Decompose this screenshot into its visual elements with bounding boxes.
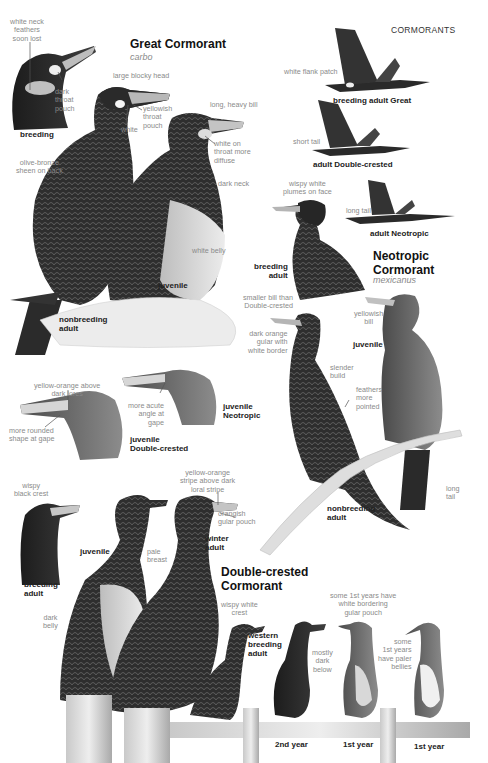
- label-dc-2nd-year: 2nd year: [275, 740, 308, 749]
- label-neo-breeding: breeding adult: [254, 262, 288, 280]
- note-short-tail: short tail: [293, 138, 320, 146]
- note-white: white: [121, 126, 138, 134]
- post-middle: [124, 708, 170, 763]
- note-rounded-gape: more rounded shape at gape: [9, 427, 55, 444]
- label-flight-neo: adult Neotropic: [370, 229, 429, 238]
- label-juv-dc: juvenile Double-crested: [130, 435, 188, 453]
- field-guide-page: CORMORANTS Great Cormorant carbo white n…: [0, 0, 488, 763]
- note-long-tail-flight: long tail: [346, 207, 371, 215]
- note-yellow-orange-lores: yellow-orange above dark lores: [34, 382, 100, 399]
- label-dc-breeding: breeding adult: [24, 580, 58, 598]
- neotropic-scientific: mexicanus: [373, 275, 416, 285]
- dc-1st-year-a: [338, 622, 378, 718]
- note-yellow-pouch: yellowish throat pouch: [143, 105, 172, 130]
- post-left: [66, 695, 112, 763]
- great-cormorant-title: Great Cormorant: [130, 38, 226, 52]
- fence-rail: [170, 722, 470, 738]
- note-wispy-plumes: wispy white plumes on face: [283, 180, 332, 197]
- note-white-belly: white belly: [192, 247, 226, 255]
- note-mostly-dark: mostly dark below: [312, 649, 333, 674]
- flight-double-crested: [312, 100, 410, 156]
- label-great-juvenile: juvenile: [158, 281, 188, 290]
- note-olive-sheen: olive-bronze sheen on back: [16, 159, 63, 176]
- note-paler-bellies: some 1st years have paler bellies: [378, 638, 412, 671]
- note-blocky-head: large blocky head: [113, 72, 169, 80]
- label-dc-winter: winter adult: [205, 534, 229, 552]
- fence-post-1: [243, 708, 259, 763]
- note-dark-pouch: dark throat pouch: [55, 88, 75, 113]
- note-smaller-bill: smaller bill than Double-crested: [243, 294, 293, 311]
- label-neo-nonbreeding: nonbreeding adult: [327, 504, 375, 522]
- note-feathers-pointed: feathers more pointed: [356, 386, 382, 411]
- note-white-throat: white on throat more diffuse: [214, 140, 251, 165]
- section-header: CORMORANTS: [391, 26, 455, 36]
- label-juv-neo: juvenile Neotropic: [223, 402, 260, 420]
- note-dark-orange: dark orange gular with white border: [248, 330, 288, 355]
- note-dark-belly: dark belly: [43, 614, 58, 631]
- note-white-crest: wispy white crest: [221, 601, 258, 618]
- note-neck-feathers: white neck feathers soon lost: [10, 18, 44, 43]
- dc-title: Double-crested Cormorant: [221, 566, 308, 594]
- label-great-nonbreeding: nonbreeding adult: [59, 315, 107, 333]
- label-great-breeding: breeding: [20, 130, 54, 139]
- fence-post-2: [380, 708, 396, 763]
- label-flight-dc: adult Double-crested: [313, 160, 393, 169]
- note-long-tail: long tail: [446, 485, 460, 502]
- neotropic-title: Neotropic Cormorant: [373, 250, 434, 278]
- note-heavy-bill: long, heavy bill: [210, 101, 258, 109]
- note-stripe: yellow-orange stripe above dark loral st…: [180, 469, 235, 494]
- note-gular-pouch: orangish gular pouch: [218, 510, 256, 527]
- note-acute-angle: more acute angle at gape: [128, 402, 164, 427]
- flight-great: [325, 28, 430, 92]
- flight-neotropic: [345, 180, 455, 224]
- note-yellowish-bill: yellowish bill: [354, 310, 383, 327]
- label-dc-1st-year-a: 1st year: [343, 740, 373, 749]
- note-slender: slender build: [330, 364, 354, 381]
- label-dc-juvenile: juvenile: [80, 547, 110, 556]
- note-pale-breast: pale breast: [147, 548, 167, 565]
- label-dc-1st-year-b: 1st year: [414, 742, 444, 751]
- label-neo-juvenile: juvenile: [353, 340, 383, 349]
- note-flank-patch: white flank patch: [284, 68, 338, 76]
- note-black-crest: wispy black crest: [14, 482, 48, 499]
- great-cormorant-scientific: carbo: [130, 52, 153, 62]
- dc-breeding-head: [21, 503, 80, 585]
- label-dc-western: western breeding adult: [248, 631, 282, 659]
- note-dark-neck: dark neck: [218, 180, 249, 188]
- label-flight-great: breeding adult Great: [333, 96, 411, 105]
- note-white-border: some 1st years have white bordering gula…: [330, 592, 396, 617]
